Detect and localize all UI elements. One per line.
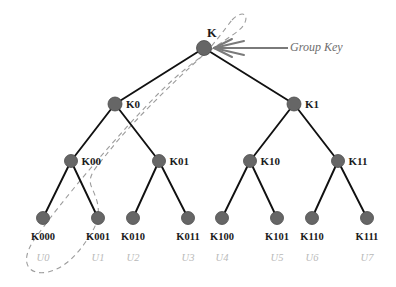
node-label-k1: K1	[305, 99, 319, 110]
node-label-k01: K01	[170, 156, 190, 167]
tree-node-k010[interactable]	[127, 212, 140, 225]
tree-edge	[115, 48, 204, 104]
tree-edge	[159, 161, 188, 218]
tree-edge	[250, 104, 294, 161]
tree-node-k100[interactable]	[216, 212, 229, 225]
tree-node-k111[interactable]	[361, 212, 374, 225]
user-label-u4: U4	[192, 253, 252, 264]
tree-node-k11[interactable]	[332, 155, 345, 168]
node-label-k0: K0	[126, 99, 140, 110]
tree-node-k110[interactable]	[306, 212, 319, 225]
tree-edges	[43, 48, 367, 218]
user-label-u7: U7	[337, 253, 396, 264]
tree-edge	[312, 161, 338, 218]
user-label-u2: U2	[103, 253, 163, 264]
tree-node-k1[interactable]	[287, 97, 301, 111]
tree-edge	[222, 161, 250, 218]
leaf-label-k000: K000	[13, 232, 73, 243]
tree-node-k001[interactable]	[92, 212, 105, 225]
tree-edge	[338, 161, 367, 218]
leaf-label-k100: K100	[192, 232, 252, 243]
node-label-k00: K00	[82, 156, 102, 167]
node-label-k: K	[207, 27, 217, 40]
node-label-k10: K10	[261, 156, 281, 167]
group-key-arrow	[214, 39, 288, 57]
user-label-u0: U0	[13, 253, 73, 264]
leaf-label-k010: K010	[103, 232, 163, 243]
tree-node-k[interactable]	[197, 41, 212, 56]
tree-node-k00[interactable]	[65, 155, 78, 168]
tree-node-k0[interactable]	[108, 97, 122, 111]
tree-node-k101[interactable]	[271, 212, 284, 225]
leaf-label-k111: K111	[337, 232, 396, 243]
tree-node-k011[interactable]	[182, 212, 195, 225]
group-key-annotation-label: Group Key	[290, 41, 343, 53]
tree-edge	[133, 161, 159, 218]
tree-edge	[294, 104, 338, 161]
tree-edge	[250, 161, 277, 218]
key-tree-diagram: KK0K1K00K01K10K11K000U0K001U1K010U2K011U…	[0, 0, 396, 287]
tree-node-k000[interactable]	[37, 212, 50, 225]
tree-edge	[204, 48, 294, 104]
user-label-u6: U6	[282, 253, 342, 264]
node-label-k11: K11	[349, 156, 368, 167]
tree-node-k10[interactable]	[244, 155, 257, 168]
tree-node-k01[interactable]	[153, 155, 166, 168]
leaf-label-k110: K110	[282, 232, 342, 243]
